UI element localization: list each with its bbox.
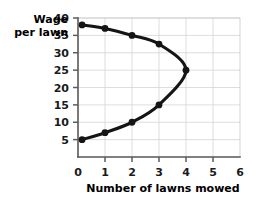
- x-tick-label-4: 4: [182, 166, 190, 179]
- x-tick-label-1: 1: [101, 166, 109, 179]
- data-point-2: [129, 119, 136, 126]
- y-tick-label-25: 25: [54, 64, 69, 77]
- data-point-5: [156, 41, 163, 48]
- data-point-1: [102, 129, 109, 136]
- y-axis-title-line1: Wage: [34, 13, 69, 26]
- x-axis-tick-labels: 0123456: [74, 166, 244, 179]
- y-axis-title-line2: per lawn: [14, 26, 68, 39]
- y-tick-label-5: 5: [61, 134, 69, 147]
- y-tick-label-30: 30: [54, 47, 70, 60]
- x-tick-label-2: 2: [128, 166, 136, 179]
- chart-page: 510152025303540 0123456 Wage per lawn Nu…: [0, 0, 267, 198]
- data-point-0: [79, 136, 86, 143]
- data-point-3: [156, 101, 163, 108]
- x-tick-label-5: 5: [209, 166, 217, 179]
- data-point-markers: [79, 22, 190, 143]
- data-point-7: [102, 25, 109, 32]
- y-tick-label-10: 10: [54, 116, 70, 129]
- data-point-6: [129, 32, 136, 39]
- y-tick-label-15: 15: [54, 99, 69, 112]
- y-tick-label-20: 20: [54, 82, 70, 95]
- wage-per-lawn-chart: 510152025303540 0123456 Wage per lawn Nu…: [0, 0, 267, 198]
- x-tick-label-6: 6: [236, 166, 244, 179]
- x-axis-title: Number of lawns mowed: [86, 182, 239, 195]
- x-tick-label-0: 0: [74, 166, 82, 179]
- x-tick-label-3: 3: [155, 166, 163, 179]
- data-point-8: [79, 22, 86, 29]
- data-point-4: [183, 67, 190, 74]
